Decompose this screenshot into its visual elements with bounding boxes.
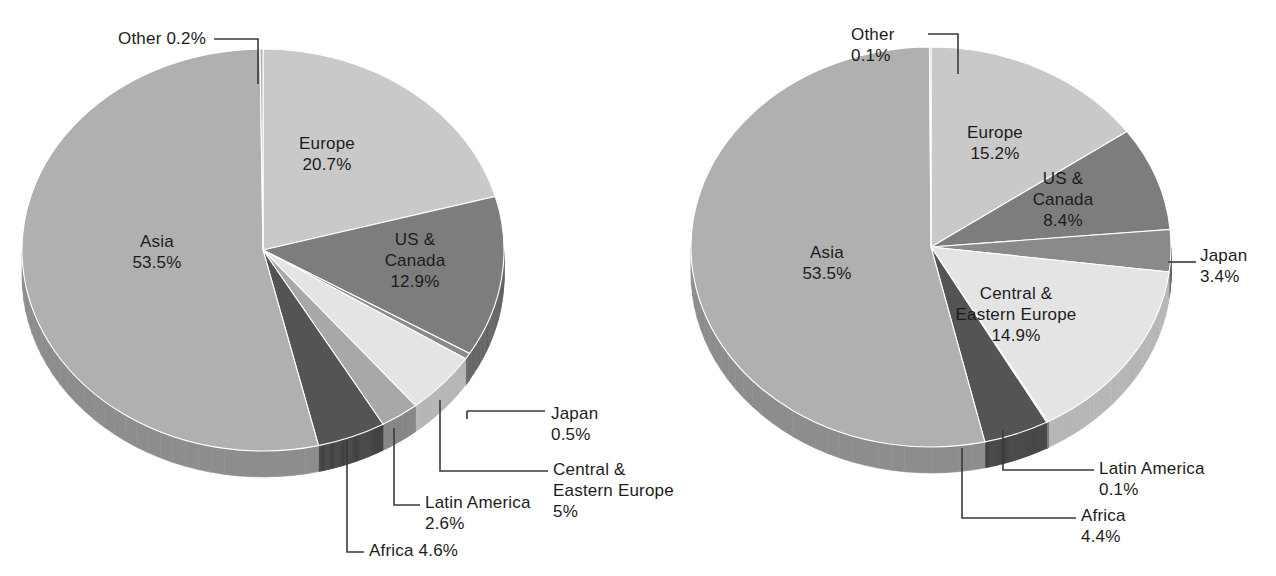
left-pie-side-6 [211,446,224,474]
right-pie-side-3 [1096,390,1099,418]
right-asia-label: Asia53.5% [772,242,882,284]
right-pie-side-3 [1082,400,1085,428]
right-africa-label: Africa4.4% [1081,505,1126,547]
right-pie-side-6 [878,442,891,470]
right-pie-side-3 [1073,406,1076,434]
left-pie-side-6 [198,444,211,473]
right-pie-side-3 [1101,386,1104,414]
right-pie-side-6 [827,427,839,458]
right-other-label: Other0.1% [851,24,895,66]
left-pie-side-6 [265,451,278,477]
right-pie-side-3 [1058,415,1061,443]
right-pie-side-3 [1104,383,1107,411]
right-pie-side-3 [1109,379,1111,407]
left-pie-side-6 [252,451,265,477]
left-pie-side-6 [225,448,238,475]
right-pie-side-6 [972,442,985,470]
right-pie-side-3 [1091,394,1094,422]
right-pie-side-6 [852,436,865,465]
right-japan-label: Japan3.4% [1200,245,1247,287]
right-us-canada-label: US &Canada8.4% [1012,168,1114,231]
left-pie-side-6 [160,432,172,463]
right-pie-side-6 [891,444,904,472]
right-pie-side-3 [1079,402,1082,430]
right-pie-side-3 [1132,354,1134,383]
right-pie-side-3 [1067,410,1070,438]
right-pie-side-6 [865,439,878,468]
left-pie-side-6 [279,450,292,477]
left-cee-label: Central &Eastern Europe5% [553,459,674,522]
right-pie-side-3 [1064,412,1067,440]
right-pie-side-3 [1076,404,1079,432]
right-latin-america-label: Latin America0.1% [1099,458,1205,500]
left-japan-leader [467,411,545,419]
right-pie-side-3 [1114,374,1116,402]
right-pie-side-3 [1121,367,1123,395]
right-europe-label: Europe15.2% [940,122,1050,164]
right-pie-side-3 [1085,398,1088,426]
left-africa-label: Africa 4.6% [369,540,458,561]
right-pie-side-6 [958,444,971,472]
right-pie-side-3 [1048,420,1051,448]
pie-charts-figure: Other 0.2% Europe20.7% US &Canada12.9% A… [0,0,1276,576]
left-latin-america-label: Latin America2.6% [425,492,531,534]
left-pie-side-6 [292,448,305,476]
right-pie-side-3 [1128,359,1130,388]
right-pie-side-3 [1130,356,1132,385]
right-pie-side-3 [1054,417,1057,445]
right-pie-side-3 [1093,392,1096,420]
left-pie-side-6 [173,436,186,466]
left-pie-side-6 [238,450,251,477]
right-pie-side-3 [1088,396,1091,424]
left-japan-label: Japan0.5% [551,403,598,445]
right-pie-side-3 [1119,369,1121,397]
right-pie-side-3 [1107,381,1110,409]
left-other-label: Other 0.2% [118,28,206,49]
right-pie-side-3 [1112,376,1114,404]
right-pie-side-3 [1123,364,1125,393]
right-pie-side-6 [840,432,853,462]
right-pie-side-6 [932,447,945,473]
right-pie-side-6 [945,446,958,473]
left-us-canada-label: US &Canada12.9% [360,229,470,292]
right-pie-side-3 [1116,371,1118,399]
right-pie-side-3 [1051,419,1054,447]
left-pie-side-6 [185,440,198,469]
right-cee-label: Central &Eastern Europe14.9% [921,283,1111,346]
left-asia-label: Asia53.5% [102,231,212,273]
left-pie-side-6 [305,446,318,474]
right-pie-side-6 [905,446,918,473]
right-pie-side-3 [1099,388,1102,416]
left-europe-label: Europe20.7% [272,133,382,175]
right-pie-side-3 [1061,414,1064,442]
right-pie-side-6 [918,447,931,473]
right-pie [691,47,1171,473]
right-pie-side-3 [1070,408,1073,436]
right-pie-side-3 [1126,361,1128,390]
